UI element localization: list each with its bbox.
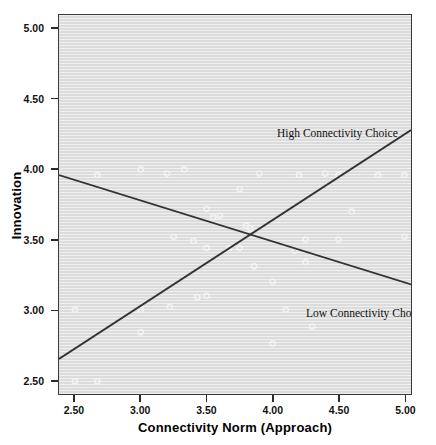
y-axis-tick-mark <box>51 27 58 29</box>
scatter-point <box>72 307 77 312</box>
scatter-point <box>237 186 242 191</box>
scatter-point <box>257 171 262 176</box>
y-axis-title: Innovation <box>9 116 24 296</box>
x-axis-tick-label: 5.00 <box>395 404 415 416</box>
scatter-point <box>191 238 196 243</box>
y-axis-tick-mark <box>51 168 58 170</box>
scatter-point <box>252 264 257 269</box>
series-label-low-connectivity: Low Connectivity Choice <box>306 307 412 319</box>
scatter-point <box>248 226 253 231</box>
scatter-point <box>402 234 407 239</box>
scatter-point <box>195 295 200 300</box>
series-label-high-connectivity: High Connectivity Choice <box>277 127 398 139</box>
x-axis-tick-label: 4.50 <box>329 404 349 416</box>
scatter-point <box>204 245 209 250</box>
y-axis-tick-label: 2.50 <box>0 375 44 387</box>
scatter-point <box>283 307 288 312</box>
x-axis-tick-label: 4.00 <box>263 404 283 416</box>
scatter-point <box>204 206 209 211</box>
scatter-point <box>323 171 328 176</box>
scatter-point <box>310 324 315 329</box>
scatter-point <box>138 167 143 172</box>
y-axis-tick-mark <box>51 310 58 312</box>
scatter-point <box>375 172 380 177</box>
scatter-point <box>217 213 222 218</box>
scatter-point <box>95 172 100 177</box>
y-axis-tick-label: 5.00 <box>0 22 44 34</box>
scatter-point <box>303 237 308 242</box>
regression-line-positive <box>59 130 411 359</box>
y-axis-tick-mark <box>51 239 58 241</box>
y-axis-tick-label: 4.50 <box>0 93 44 105</box>
x-axis-tick-mark <box>73 395 75 402</box>
scatter-plot-chart: 2.503.003.504.004.505.00 2.503.003.504.0… <box>0 0 436 445</box>
scatter-point <box>138 330 143 335</box>
scatter-point <box>303 259 308 264</box>
scatter-point <box>72 379 77 384</box>
plot-area: High Connectivity Choice Low Connectivit… <box>58 14 412 395</box>
scatter-point <box>296 172 301 177</box>
scatter-point <box>237 245 242 250</box>
scatter-point <box>165 171 170 176</box>
scatter-point <box>349 209 354 214</box>
x-axis-tick-label: 2.50 <box>64 404 84 416</box>
y-axis-tick-label: 3.00 <box>0 304 44 316</box>
scatter-point <box>270 279 275 284</box>
x-axis-title: Connectivity Norm (Approach) <box>58 420 412 435</box>
scatter-point <box>171 234 176 239</box>
scatter-point <box>95 379 100 384</box>
scatter-point <box>270 341 275 346</box>
x-axis-tick-label: 3.00 <box>130 404 150 416</box>
x-axis-tick-mark <box>272 395 274 402</box>
y-axis-tick-mark <box>51 98 58 100</box>
scatter-point <box>402 172 407 177</box>
x-axis-tick-mark <box>405 395 407 402</box>
x-axis-tick-mark <box>338 395 340 402</box>
scatter-point <box>211 215 216 220</box>
plot-graphics <box>59 15 411 394</box>
x-axis-tick-mark <box>139 395 141 402</box>
scatter-point <box>167 304 172 309</box>
scatter-point <box>336 237 341 242</box>
scatter-point <box>204 293 209 298</box>
regression-line-negative <box>59 175 411 284</box>
x-axis-tick-mark <box>206 395 208 402</box>
x-axis-tick-label: 3.50 <box>196 404 216 416</box>
scatter-point <box>182 167 187 172</box>
y-axis-tick-mark <box>51 380 58 382</box>
